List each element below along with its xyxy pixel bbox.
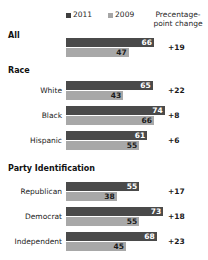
bar-value-2009-republican: 38 [104, 192, 114, 201]
bar-2009-all: 47 [66, 48, 129, 57]
table-row: Republican 55 38 +17 [0, 181, 208, 203]
row-bars-white: 65 43 [66, 80, 166, 102]
table-row: White 65 43 +22 [0, 80, 208, 102]
bar-chart: 2011 2009 Precentage- point change All 6… [0, 0, 208, 260]
change-column-header: Precentage- point change [150, 10, 206, 28]
bar-value-2011-independent: 68 [144, 232, 154, 241]
bar-2011-all: 66 [66, 38, 154, 47]
row-change-republican: +17 [168, 187, 202, 196]
row-label-hispanic: Hispanic [0, 136, 62, 145]
row-change-all: +19 [168, 43, 202, 52]
bar-value-2009-independent: 45 [114, 242, 124, 251]
bar-2009-hispanic: 55 [66, 141, 139, 150]
bar-2009-republican: 38 [66, 192, 117, 201]
bar-2009-white: 43 [66, 91, 123, 100]
bar-value-2009-black: 66 [142, 116, 152, 125]
table-row: 66 47 +19 [0, 37, 208, 59]
bar-2009-independent: 45 [66, 242, 126, 251]
row-bars-hispanic: 61 55 [66, 130, 166, 152]
bar-value-2011-white: 65 [140, 81, 150, 90]
row-change-white: +22 [168, 86, 202, 95]
row-label-black: Black [0, 111, 62, 120]
bar-2009-democrat: 55 [66, 217, 139, 226]
bar-value-2009-white: 43 [111, 91, 121, 100]
bar-2011-democrat: 73 [66, 207, 163, 216]
bar-2011-hispanic: 61 [66, 131, 147, 140]
section-title-race: Race [8, 66, 30, 75]
bar-value-2011-democrat: 73 [151, 207, 161, 216]
row-change-black: +8 [168, 111, 202, 120]
row-bars-democrat: 73 55 [66, 206, 166, 228]
row-label-white: White [0, 86, 62, 95]
bar-value-2011-republican: 55 [127, 182, 137, 191]
legend-label-2009: 2009 [115, 11, 134, 19]
bar-value-2009-democrat: 55 [127, 217, 137, 226]
row-label-democrat: Democrat [0, 212, 62, 221]
bar-value-2011-black: 74 [152, 106, 162, 115]
table-row: Independent 68 45 +23 [0, 231, 208, 253]
bar-2009-black: 66 [66, 116, 154, 125]
bar-2011-white: 65 [66, 81, 153, 90]
bar-value-2011-all: 66 [142, 38, 152, 47]
row-bars-republican: 55 38 [66, 181, 166, 203]
row-change-hispanic: +6 [168, 136, 202, 145]
row-label-independent: Independent [0, 237, 62, 246]
bar-2011-independent: 68 [66, 232, 157, 241]
bar-value-2011-hispanic: 61 [135, 131, 145, 140]
bar-2011-black: 74 [66, 106, 165, 115]
row-change-independent: +23 [168, 237, 202, 246]
row-bars-all: 66 47 [66, 37, 166, 59]
legend-swatch-2009-icon [108, 13, 113, 18]
bar-2011-republican: 55 [66, 182, 139, 191]
change-column-header-line1: Precentage- [150, 10, 206, 19]
table-row: Hispanic 61 55 +6 [0, 130, 208, 152]
legend-swatch-2011-icon [66, 13, 71, 18]
row-bars-independent: 68 45 [66, 231, 166, 253]
table-row: Black 74 66 +8 [0, 105, 208, 127]
row-label-republican: Republican [0, 187, 62, 196]
legend-item-2009: 2009 [108, 11, 134, 19]
row-bars-black: 74 66 [66, 105, 166, 127]
chart-legend: 2011 2009 [66, 11, 152, 23]
change-column-header-line2: point change [150, 19, 206, 28]
row-change-democrat: +18 [168, 212, 202, 221]
section-title-party-identification: Party Identification [8, 164, 95, 173]
legend-label-2011: 2011 [73, 11, 92, 19]
bar-value-2009-hispanic: 55 [127, 141, 137, 150]
bar-value-2009-all: 47 [116, 48, 126, 57]
legend-item-2011: 2011 [66, 11, 92, 19]
table-row: Democrat 73 55 +18 [0, 206, 208, 228]
